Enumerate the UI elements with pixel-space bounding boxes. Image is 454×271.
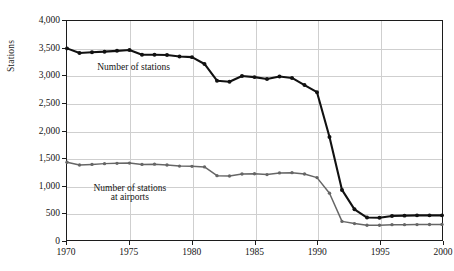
series-label: Number of stations xyxy=(97,62,170,72)
x-tick-label: 1995 xyxy=(356,247,404,257)
x-tick-mark xyxy=(129,241,130,245)
x-tick-mark xyxy=(317,241,318,245)
data-point-marker xyxy=(415,213,419,217)
plot-area: Number of stationsNumber of stationsat a… xyxy=(66,20,443,241)
data-point-marker xyxy=(153,53,157,57)
data-point-marker xyxy=(240,172,243,175)
data-point-marker xyxy=(203,62,207,66)
data-point-marker xyxy=(265,173,268,176)
data-point-marker xyxy=(378,216,382,220)
data-point-marker xyxy=(140,163,143,166)
data-point-marker xyxy=(165,53,169,57)
series-label: at airports xyxy=(111,192,149,202)
data-point-marker xyxy=(353,222,356,225)
data-point-marker xyxy=(290,76,294,80)
data-point-marker xyxy=(365,224,368,227)
data-point-marker xyxy=(190,55,194,59)
data-point-marker xyxy=(90,163,93,166)
data-point-marker xyxy=(428,223,431,226)
data-series-layer xyxy=(67,21,442,240)
data-point-marker xyxy=(190,165,193,168)
data-point-marker xyxy=(315,176,318,179)
data-point-marker xyxy=(178,164,181,167)
data-point-marker xyxy=(315,90,319,94)
data-point-marker xyxy=(178,55,182,59)
data-point-marker xyxy=(365,216,369,220)
x-tick-mark xyxy=(192,241,193,245)
data-point-marker xyxy=(215,174,218,177)
data-point-marker xyxy=(328,135,332,139)
data-point-marker xyxy=(390,214,394,218)
data-point-marker xyxy=(115,49,119,53)
data-point-marker xyxy=(240,74,244,78)
data-point-marker xyxy=(378,224,381,227)
x-tick-label: 1980 xyxy=(168,247,216,257)
x-tick-label: 1985 xyxy=(231,247,279,257)
data-point-marker xyxy=(103,162,106,165)
x-tick-mark xyxy=(255,241,256,245)
data-point-marker xyxy=(140,53,144,57)
x-tick-label: 1990 xyxy=(293,247,341,257)
chart-figure: Stations 05001,0001,5002,0002,5003,0003,… xyxy=(0,0,454,271)
data-point-marker xyxy=(253,172,256,175)
data-point-marker xyxy=(228,174,231,177)
x-tick-label: 2000 xyxy=(419,247,454,257)
data-point-marker xyxy=(328,192,331,195)
data-point-marker xyxy=(290,171,293,174)
x-tick-label: 1975 xyxy=(105,247,153,257)
data-point-marker xyxy=(65,161,68,164)
data-point-marker xyxy=(340,188,344,192)
x-tick-mark xyxy=(66,241,67,245)
data-point-marker xyxy=(78,51,82,55)
data-point-marker xyxy=(228,80,232,84)
data-point-marker xyxy=(403,223,406,226)
data-point-marker xyxy=(115,162,118,165)
data-point-marker xyxy=(278,75,282,79)
data-point-marker xyxy=(278,171,281,174)
data-point-marker xyxy=(340,220,343,223)
x-tick-mark xyxy=(443,241,444,245)
data-point-marker xyxy=(165,163,168,166)
x-tick-label: 1970 xyxy=(42,247,90,257)
data-point-marker xyxy=(303,83,307,87)
data-point-marker xyxy=(390,223,393,226)
data-point-marker xyxy=(215,79,219,83)
data-point-marker xyxy=(78,163,81,166)
data-point-marker xyxy=(90,50,94,54)
data-point-marker xyxy=(128,161,131,164)
data-point-marker xyxy=(440,223,443,226)
data-point-marker xyxy=(403,214,407,218)
data-point-marker xyxy=(253,75,257,79)
x-tick-mark xyxy=(380,241,381,245)
data-point-marker xyxy=(440,213,444,217)
data-point-marker xyxy=(353,207,357,211)
data-point-marker xyxy=(415,223,418,226)
data-point-marker xyxy=(265,77,269,81)
data-point-marker xyxy=(303,172,306,175)
data-point-marker xyxy=(203,165,206,168)
data-point-marker xyxy=(153,162,156,165)
data-point-marker xyxy=(103,50,107,54)
data-point-marker xyxy=(128,48,132,52)
data-point-marker xyxy=(428,213,432,217)
data-point-marker xyxy=(65,46,69,50)
